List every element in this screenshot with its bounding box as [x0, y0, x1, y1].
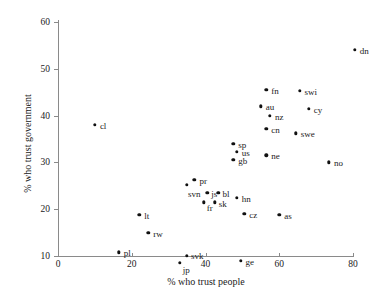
- data-point: [265, 154, 268, 157]
- data-point-label: hn: [242, 195, 251, 204]
- y-axis-tick-label: 10: [41, 251, 51, 261]
- data-point: [231, 142, 234, 145]
- x-axis-tick-label: 0: [56, 259, 61, 269]
- data-point-label: cz: [249, 211, 257, 220]
- data-point: [235, 196, 238, 199]
- data-point-label: ge: [246, 258, 255, 267]
- data-point: [231, 158, 234, 161]
- data-point-label: cn: [271, 126, 280, 135]
- data-point: [298, 89, 301, 92]
- data-point: [193, 178, 196, 181]
- y-axis-tick: [54, 256, 58, 257]
- data-point: [353, 48, 356, 51]
- data-point: [235, 150, 238, 153]
- data-point: [137, 213, 140, 216]
- y-axis-tick-label: 50: [41, 64, 51, 74]
- data-point-label: jp: [183, 266, 190, 275]
- scatter-chart: 020406080102030405060 dnfnswiaucynzcnswe…: [0, 0, 382, 299]
- x-axis-tick-label: 20: [127, 259, 137, 269]
- data-point: [217, 191, 220, 194]
- data-point: [268, 114, 271, 117]
- x-axis-tick: [206, 253, 207, 257]
- data-point-label: pr: [199, 177, 207, 186]
- data-point: [243, 212, 246, 215]
- data-point: [93, 123, 96, 126]
- data-point: [147, 231, 150, 234]
- data-point: [259, 105, 262, 108]
- y-axis-tick: [54, 162, 58, 163]
- y-axis-tick: [54, 22, 58, 23]
- data-point: [185, 183, 188, 186]
- data-point-label: fn: [271, 87, 279, 96]
- data-point: [213, 200, 216, 203]
- data-point-label: bl: [222, 190, 229, 199]
- data-point-label: nz: [275, 113, 284, 122]
- data-point-label: cy: [314, 106, 323, 115]
- data-point: [278, 213, 281, 216]
- data-point: [239, 259, 242, 262]
- x-axis-tick: [353, 253, 354, 257]
- x-axis-tick-label: 60: [275, 259, 285, 269]
- data-point-label: fr: [207, 204, 213, 213]
- data-point-label: ne: [271, 152, 280, 161]
- data-point-label: no: [334, 159, 343, 168]
- y-axis-tick: [54, 116, 58, 117]
- data-point-label: au: [266, 103, 275, 112]
- data-point: [265, 88, 268, 91]
- data-point: [202, 200, 205, 203]
- data-point-label: as: [284, 212, 292, 221]
- y-axis-tick-label: 60: [41, 17, 51, 27]
- y-axis-title: % who trust government: [22, 59, 33, 229]
- y-axis-tick: [54, 69, 58, 70]
- y-axis-tick-label: 40: [41, 111, 51, 121]
- data-point-label: svk: [191, 252, 204, 261]
- data-point: [185, 254, 188, 257]
- data-point-label: lt: [144, 212, 149, 221]
- data-point: [307, 107, 310, 110]
- data-point-label: pl: [124, 249, 131, 258]
- data-point: [178, 261, 181, 264]
- data-point: [327, 161, 330, 164]
- plot-area: 020406080102030405060 dnfnswiaucynzcnswe…: [0, 0, 382, 299]
- data-point-label: swe: [301, 130, 315, 139]
- x-axis-tick-label: 80: [348, 259, 358, 269]
- x-axis-tick: [58, 253, 59, 257]
- data-point-label: gb: [238, 157, 247, 166]
- data-point-label: rw: [153, 230, 163, 239]
- data-point-label: sk: [219, 200, 227, 209]
- y-axis-line: [58, 20, 59, 257]
- data-point-label: cl: [100, 122, 107, 131]
- y-axis-tick-label: 20: [41, 204, 51, 214]
- x-axis-title: % who trust people: [167, 276, 245, 287]
- data-point-label: dn: [360, 47, 369, 56]
- x-axis-tick: [279, 253, 280, 257]
- data-point: [265, 127, 268, 130]
- data-point: [117, 251, 120, 254]
- x-axis-tick: [132, 253, 133, 257]
- data-point: [294, 132, 297, 135]
- y-axis-tick-label: 30: [41, 157, 51, 167]
- y-axis-tick: [54, 209, 58, 210]
- data-point-label: svn: [188, 190, 201, 199]
- data-point: [206, 191, 209, 194]
- data-point-label: swi: [305, 88, 318, 97]
